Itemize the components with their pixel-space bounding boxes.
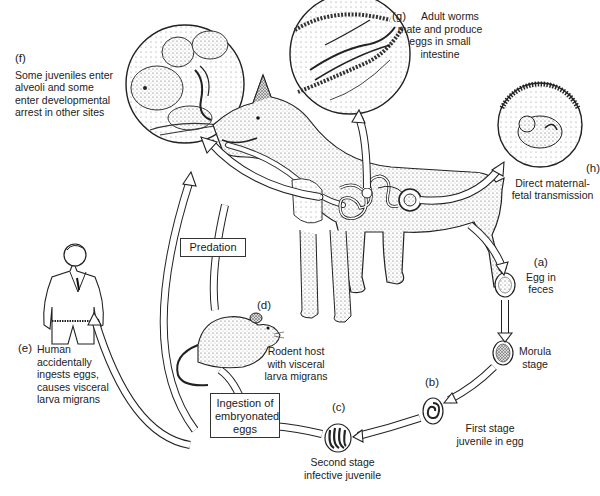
ingestion-line3: eggs xyxy=(215,423,275,436)
egg-stage-b xyxy=(423,398,443,424)
label-c: Second stage infective juvenile xyxy=(295,456,390,481)
predation-label: Predation xyxy=(189,241,236,253)
label-e: (e) Human accidentally ingests eggs, cau… xyxy=(18,343,109,406)
label-morula: Morula stage xyxy=(519,345,551,370)
label-b: First stage juvenile in egg xyxy=(440,422,540,447)
label-c-line2: infective juvenile xyxy=(295,469,390,482)
label-morula-line2: stage xyxy=(519,358,551,371)
label-b-line2: juvenile in egg xyxy=(440,435,540,448)
egg-stage-morula xyxy=(493,341,513,365)
label-f-line2: alveoli and some xyxy=(15,81,113,94)
label-g: (g)Adult worms mate and produce eggs in … xyxy=(390,10,490,60)
tag-e: (e) xyxy=(18,342,32,355)
label-f-line4: arrest in other sites xyxy=(15,106,113,119)
tag-a: (a) xyxy=(526,256,556,269)
ingestion-line1: Ingestion of xyxy=(215,397,275,410)
fetus-inset xyxy=(498,83,582,167)
label-d-line1: Rodent host xyxy=(256,345,336,358)
label-g-line2: mate and produce xyxy=(390,23,490,36)
label-g-line1: Adult worms xyxy=(401,10,479,22)
label-a-line1: Egg in xyxy=(526,271,556,284)
ingestion-line2: embryonated xyxy=(215,410,275,423)
egg-stage-a xyxy=(495,273,515,297)
label-f: (f) Some juveniles enter alveoli and som… xyxy=(15,52,113,119)
tag-c: (c) xyxy=(332,401,345,413)
life-cycle-diagram: (f) Some juveniles enter alveoli and som… xyxy=(0,0,600,496)
egg-stage-c xyxy=(325,424,351,452)
label-b-line1: First stage xyxy=(440,422,540,435)
label-f-line3: enter developmental xyxy=(15,94,113,107)
predation-box: Predation xyxy=(180,238,246,257)
label-e-line4: causes visceral xyxy=(37,381,109,394)
label-g-line4: intestine xyxy=(390,48,490,61)
tag-b: (b) xyxy=(425,376,439,388)
label-d-line2: with visceral xyxy=(256,358,336,371)
tag-g: (g) xyxy=(392,10,406,23)
label-d: Rodent host with visceral larva migrans xyxy=(256,345,336,383)
label-c-line1: Second stage xyxy=(295,456,390,469)
label-f-line1: Some juveniles enter xyxy=(15,69,113,82)
ingestion-box: Ingestion of embryonated eggs xyxy=(210,393,280,438)
label-d-line3: larva migrans xyxy=(256,370,336,383)
label-e-line2: accidentally xyxy=(37,356,109,369)
tag-f: (f) xyxy=(15,52,113,65)
label-morula-line1: Morula xyxy=(519,345,551,358)
tag-h: (h) xyxy=(505,162,600,175)
label-h-line1: Direct maternal- xyxy=(505,177,600,190)
tag-d: (d) xyxy=(257,299,271,311)
label-d-tag: (d) xyxy=(257,299,271,312)
label-a-line2: feces xyxy=(526,283,556,296)
label-b-tag: (b) xyxy=(425,376,439,389)
label-a: (a) Egg in feces xyxy=(526,256,556,296)
label-g-line3: eggs in small xyxy=(390,35,490,48)
label-h: (h) Direct maternal- fetal transmission xyxy=(505,162,600,202)
label-c-tag: (c) xyxy=(332,401,345,414)
label-e-line1: Human xyxy=(37,343,109,356)
label-h-line2: fetal transmission xyxy=(505,189,600,202)
label-e-line3: ingests eggs, xyxy=(37,368,109,381)
label-e-line5: larva migrans xyxy=(37,393,109,406)
